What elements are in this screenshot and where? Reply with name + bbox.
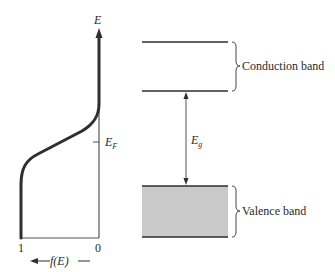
fermi-level-label: EF bbox=[104, 135, 117, 151]
fE-tick-one: 1 bbox=[18, 241, 24, 255]
band-gap-arrow-down-icon bbox=[184, 178, 189, 185]
valence-band-label: Valence band bbox=[242, 204, 306, 218]
fermi-dirac-plot: E EF 1 0 f(E) bbox=[18, 13, 117, 268]
valence-band-fill bbox=[142, 186, 228, 237]
fE-arrow-left-icon bbox=[30, 258, 38, 264]
energy-axis-label: E bbox=[93, 13, 102, 27]
band-gap-label: Eg bbox=[190, 133, 202, 149]
band-diagram: E EF 1 0 f(E) Conduction band Valence ba… bbox=[0, 0, 335, 272]
valence-band-brace bbox=[232, 186, 240, 237]
band-gap-arrow-up-icon bbox=[184, 92, 189, 99]
energy-bands: Conduction band Valence band Eg bbox=[142, 42, 324, 237]
fermi-dirac-curve bbox=[21, 38, 99, 238]
fE-axis-label: f(E) bbox=[50, 254, 69, 268]
conduction-band-brace bbox=[232, 42, 240, 91]
fE-tick-zero: 0 bbox=[95, 241, 101, 255]
conduction-band-label: Conduction band bbox=[242, 59, 324, 73]
